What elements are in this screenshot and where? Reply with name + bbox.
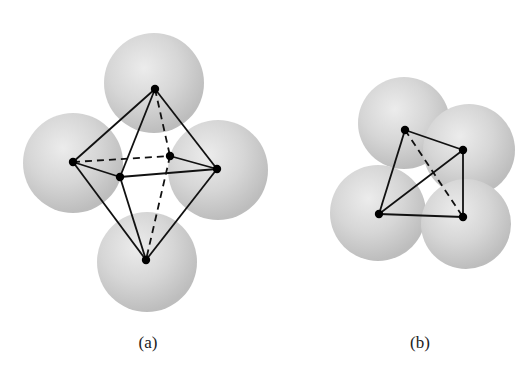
panel-label-b: (b) xyxy=(410,333,430,353)
sphere xyxy=(421,179,511,269)
vertex-dot xyxy=(116,173,124,181)
vertex-dot xyxy=(213,165,221,173)
vertex-dot xyxy=(375,210,383,218)
octahedral-packing-diagram xyxy=(23,33,268,312)
vertex-dot xyxy=(142,256,150,264)
panel-label-a: (a) xyxy=(139,333,158,353)
vertex-dot xyxy=(459,213,467,221)
figure-canvas xyxy=(0,0,529,373)
vertex-dot xyxy=(151,85,159,93)
sphere xyxy=(104,33,204,133)
vertex-dot xyxy=(166,152,174,160)
vertex-dot xyxy=(401,126,409,134)
vertex-dot xyxy=(459,146,467,154)
tetrahedral-packing-diagram xyxy=(330,77,515,269)
vertex-dot xyxy=(69,158,77,166)
